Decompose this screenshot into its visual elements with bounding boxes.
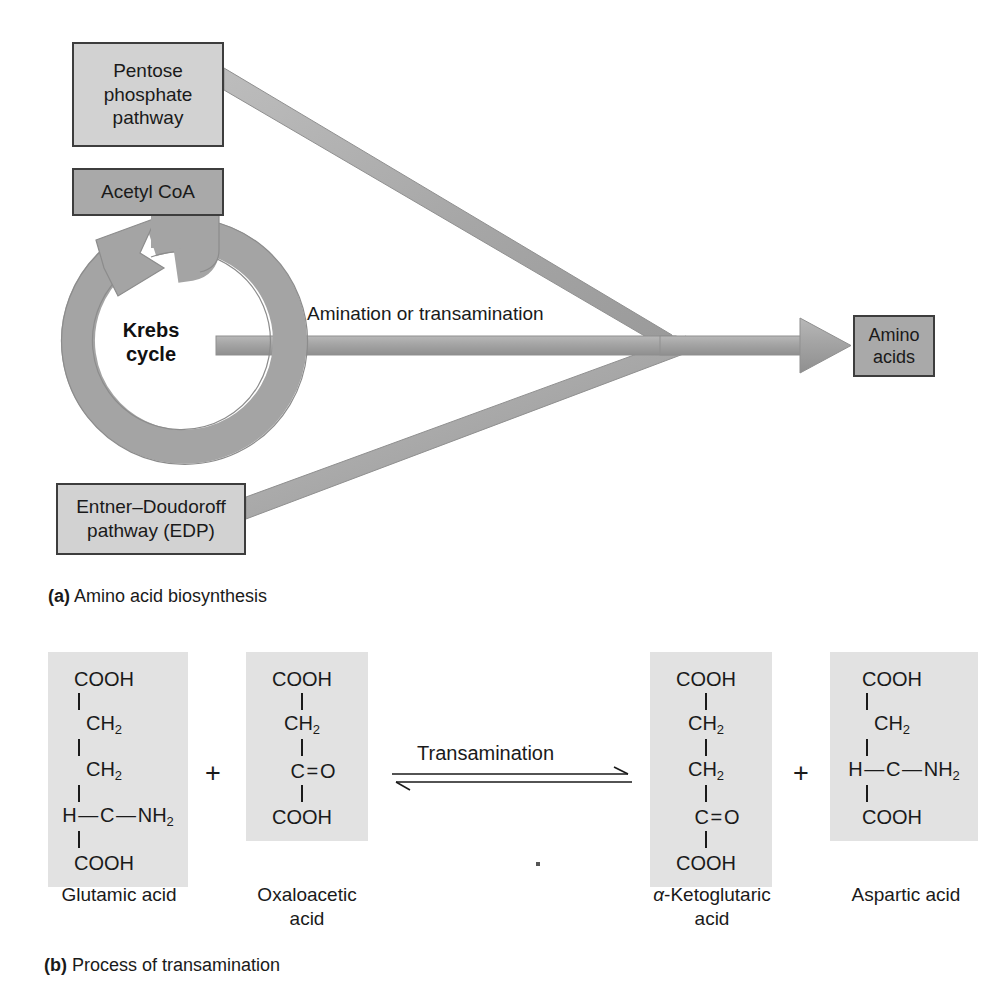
molecule-glutamic-acid: COOH CH2 CH2 H — C — NH2 COOH <box>48 652 188 887</box>
atom-row: CH2 <box>650 710 772 739</box>
caption-text: Amino acid biosynthesis <box>74 586 267 606</box>
atom-row: COOH <box>650 664 772 693</box>
atom-row: CH2 <box>48 756 188 785</box>
amination-flow-label: Amination or transamination <box>307 303 544 325</box>
node-acetyl-coa[interactable]: Acetyl CoA <box>72 168 224 216</box>
bond-vertical <box>241 693 363 710</box>
node-entner-doudoroff-pathway[interactable]: Entner–Doudoroffpathway (EDP) <box>56 483 246 555</box>
atom-row-amino: H — C — NH2 <box>830 756 978 785</box>
node-label: Aminoacids <box>868 324 919 369</box>
krebs-cycle-label: Krebs cycle <box>98 318 204 367</box>
atom-row: COOH <box>650 848 772 877</box>
stray-mark <box>536 862 540 866</box>
caption-text: Process of transamination <box>72 955 280 975</box>
atom-row: COOH <box>48 664 188 693</box>
atom-row: COOH <box>830 664 978 693</box>
bond-vertical <box>241 739 363 756</box>
caption-label: (a) <box>48 586 70 606</box>
molecule-alpha-ketoglutaric-acid: COOH CH2 CH2 C = O COOH <box>650 652 772 887</box>
bond-vertical <box>34 693 174 710</box>
bond-vertical <box>645 831 767 848</box>
bond-vertical <box>34 739 174 756</box>
bond-vertical <box>818 693 966 710</box>
arrow-junction-to-amino-acids <box>660 318 851 373</box>
atom-row: CH2 <box>246 710 368 739</box>
molecule-name-glutamic-acid: Glutamic acid <box>34 883 204 907</box>
atom-row-carbonyl: C = O <box>246 756 368 785</box>
bond-vertical <box>645 693 767 710</box>
atom-row: CH2 <box>830 710 978 739</box>
molecule-name-aspartic-acid: Aspartic acid <box>826 883 986 907</box>
atom-row-amino: H — C — NH2 <box>48 802 188 831</box>
bond-vertical <box>818 739 966 756</box>
arrow-edp-to-junction <box>246 336 686 519</box>
node-label: Entner–Doudoroffpathway (EDP) <box>76 495 226 542</box>
node-pentose-phosphate-pathway[interactable]: Pentosephosphatepathway <box>72 42 224 147</box>
atom-row: COOH <box>246 664 368 693</box>
atom-row-carbonyl: C = O <box>650 802 772 831</box>
node-label: Acetyl CoA <box>101 180 195 204</box>
bond-vertical <box>818 785 966 802</box>
bond-vertical <box>645 785 767 802</box>
molecule-name-oxaloacetic-acid: Oxaloacetic acid <box>222 883 392 931</box>
panel-transamination: COOH CH2 CH2 H — C — NH2 COOH + COOH CH2… <box>0 630 993 986</box>
atom-row: COOH <box>246 802 368 831</box>
plus-sign-left: + <box>205 758 221 789</box>
node-label: Pentosephosphatepathway <box>104 59 193 130</box>
bond-vertical <box>34 785 174 802</box>
atom-row: COOH <box>830 802 978 831</box>
molecule-oxaloacetic-acid: COOH CH2 C = O COOH <box>246 652 368 841</box>
plus-sign-right: + <box>793 758 809 789</box>
molecule-name-alpha-ketoglutaric-acid: α-Ketoglutaric acid <box>598 883 826 931</box>
atom-row: COOH <box>48 848 188 877</box>
caption-panel-b: (b) Process of transamination <box>44 955 280 976</box>
molecule-aspartic-acid: COOH CH2 H — C — NH2 COOH <box>830 652 978 841</box>
panel-amino-acid-biosynthesis: Pentosephosphatepathway Acetyl CoA Krebs… <box>0 0 993 620</box>
caption-panel-a: (a) Amino acid biosynthesis <box>48 586 267 607</box>
node-amino-acids[interactable]: Aminoacids <box>853 315 935 377</box>
atom-row: CH2 <box>650 756 772 785</box>
equilibrium-arrows <box>392 752 632 810</box>
bond-vertical <box>645 739 767 756</box>
atom-row: CH2 <box>48 710 188 739</box>
bond-vertical <box>241 785 363 802</box>
caption-label: (b) <box>44 955 67 975</box>
bond-vertical <box>34 831 174 848</box>
